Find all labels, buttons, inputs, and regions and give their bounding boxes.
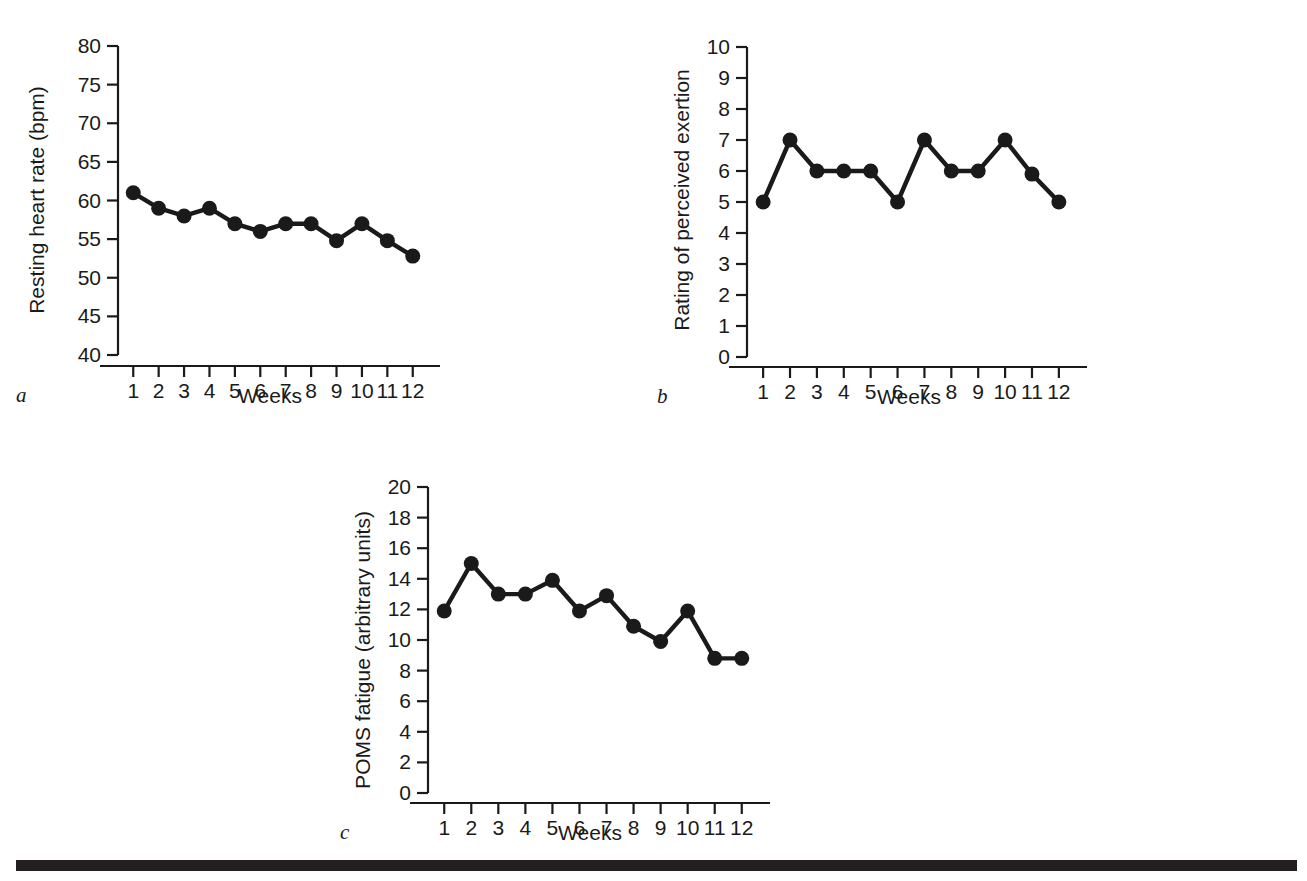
y-tick-label: 4	[718, 221, 730, 244]
panel-c: POMS fatigue (arbitrary units) 024681012…	[290, 455, 970, 855]
data-point-marker	[653, 634, 668, 649]
data-point-marker	[380, 233, 395, 248]
figure-three-panel-line-charts: Resting heart rate (bpm) 404550556065707…	[0, 0, 1307, 881]
series-line	[763, 140, 1059, 202]
data-point-marker	[126, 185, 141, 200]
panel-c-y-ticks: 02468101214161820	[388, 475, 428, 804]
y-tick-label: 1	[718, 314, 730, 337]
x-tick-label: 9	[331, 379, 343, 402]
y-tick-label: 75	[78, 73, 101, 96]
data-point-marker	[971, 164, 986, 179]
data-point-marker	[572, 603, 587, 618]
y-tick-label: 45	[78, 304, 101, 327]
series-line	[444, 564, 742, 659]
panel-b-xaxis-title: Weeks	[877, 385, 941, 408]
data-point-marker	[998, 133, 1013, 148]
y-tick-label: 20	[388, 475, 411, 498]
data-point-marker	[783, 133, 798, 148]
y-tick-label: 65	[78, 150, 101, 173]
panel-c-series	[437, 556, 750, 666]
y-tick-label: 3	[718, 252, 730, 275]
y-tick-label: 6	[718, 159, 730, 182]
data-point-marker	[405, 249, 420, 264]
y-tick-label: 2	[718, 283, 730, 306]
x-tick-label: 8	[945, 380, 957, 403]
x-tick-label: 2	[784, 380, 796, 403]
data-point-marker	[278, 216, 293, 231]
panel-c-axes	[410, 487, 770, 803]
y-tick-label: 4	[399, 720, 411, 743]
y-tick-label: 8	[399, 659, 411, 682]
panel-a-yaxis-title: Resting heart rate (bpm)	[25, 86, 48, 314]
data-point-marker	[202, 201, 217, 216]
data-point-marker	[464, 556, 479, 571]
x-tick-label: 11	[376, 379, 398, 402]
data-point-marker	[545, 573, 560, 588]
svg-text:POMS fatigue (arbitrary units): POMS fatigue (arbitrary units)	[351, 511, 374, 789]
data-point-marker	[756, 195, 771, 210]
panel-a-y-ticks: 404550556065707580	[78, 34, 118, 366]
y-tick-label: 9	[718, 66, 730, 89]
data-point-marker	[227, 216, 242, 231]
y-tick-label: 7	[718, 128, 730, 151]
x-tick-label: 8	[628, 816, 640, 839]
y-tick-label: 2	[399, 750, 411, 773]
series-line	[133, 193, 413, 256]
y-tick-label: 80	[78, 34, 101, 57]
data-point-marker	[354, 216, 369, 231]
panel-b: Rating of perceived exertion 01234567891…	[647, 0, 1307, 430]
x-tick-label: 1	[757, 380, 769, 403]
y-tick-label: 70	[78, 111, 101, 134]
x-tick-label: 1	[438, 816, 450, 839]
x-tick-label: 11	[1021, 380, 1043, 403]
data-point-marker	[491, 587, 506, 602]
panel-b-plot: Rating of perceived exertion 01234567891…	[647, 0, 1307, 430]
x-tick-label: 12	[730, 816, 753, 839]
panel-letter-a: a	[16, 385, 27, 406]
x-tick-label: 2	[153, 379, 165, 402]
panel-a-xaxis-title: Weeks	[238, 384, 302, 407]
data-point-marker	[1024, 167, 1039, 182]
data-point-marker	[734, 651, 749, 666]
panel-letter-c: c	[340, 822, 349, 843]
y-tick-label: 10	[707, 35, 730, 58]
y-tick-label: 55	[78, 227, 101, 250]
y-tick-label: 6	[399, 689, 411, 712]
data-point-marker	[518, 587, 533, 602]
y-tick-label: 12	[388, 597, 411, 620]
x-tick-label: 12	[1047, 380, 1070, 403]
panel-b-yaxis-title: Rating of perceived exertion	[670, 69, 693, 331]
x-tick-label: 8	[305, 379, 317, 402]
x-tick-label: 5	[865, 380, 877, 403]
x-tick-label: 10	[350, 379, 373, 402]
x-tick-label: 2	[465, 816, 477, 839]
x-tick-label: 10	[993, 380, 1016, 403]
bottom-rule	[16, 860, 1297, 871]
x-tick-label: 9	[655, 816, 667, 839]
data-point-marker	[863, 164, 878, 179]
panel-c-yaxis-title: POMS fatigue (arbitrary units)	[351, 511, 374, 789]
y-tick-label: 50	[78, 266, 101, 289]
y-tick-label: 60	[78, 189, 101, 212]
data-point-marker	[329, 233, 344, 248]
data-point-marker	[1051, 195, 1066, 210]
panel-b-y-ticks: 012345678910	[707, 35, 747, 368]
y-tick-label: 0	[718, 345, 730, 368]
data-point-marker	[177, 208, 192, 223]
svg-text:Resting heart rate (bpm): Resting heart rate (bpm)	[25, 86, 48, 314]
x-tick-label: 4	[520, 816, 532, 839]
panel-letter-b: b	[657, 386, 668, 407]
panel-b-axes	[729, 47, 1087, 367]
x-tick-label: 4	[204, 379, 216, 402]
data-point-marker	[626, 619, 641, 634]
y-tick-label: 8	[718, 97, 730, 120]
y-tick-label: 16	[388, 536, 411, 559]
data-point-marker	[151, 201, 166, 216]
x-tick-label: 3	[178, 379, 190, 402]
panel-a: Resting heart rate (bpm) 404550556065707…	[0, 0, 660, 430]
data-point-marker	[836, 164, 851, 179]
x-tick-label: 1	[127, 379, 139, 402]
y-tick-label: 0	[399, 781, 411, 804]
data-point-marker	[304, 216, 319, 231]
y-tick-label: 5	[718, 190, 730, 213]
